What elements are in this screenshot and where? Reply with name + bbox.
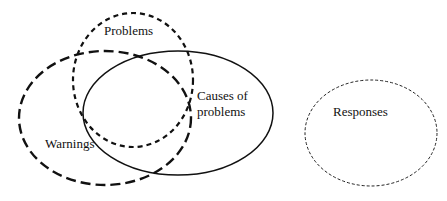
causes-label-line1: Causes of	[197, 88, 249, 103]
warnings-label: Warnings	[45, 136, 95, 151]
problems-label: Problems	[104, 23, 153, 38]
venn-diagram: Problems Warnings Causes of problems Res…	[0, 0, 447, 201]
warnings-ellipse	[19, 51, 191, 185]
causes-label-line2: problems	[197, 104, 245, 119]
responses-label: Responses	[333, 104, 388, 119]
responses-ellipse	[305, 80, 437, 186]
